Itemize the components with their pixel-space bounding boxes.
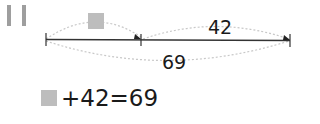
segment-label: 42	[208, 18, 232, 37]
unknown-box	[88, 13, 104, 29]
equals-sign: =	[110, 87, 129, 110]
result: 69	[129, 87, 158, 110]
number-line	[46, 40, 290, 41]
addend: 42	[80, 87, 109, 110]
unknown-box	[41, 90, 57, 106]
equation: + 42 = 69	[41, 86, 158, 110]
plus-sign: +	[61, 87, 80, 110]
total-label: 69	[162, 53, 186, 72]
arrowhead-end-icon	[283, 35, 290, 40]
